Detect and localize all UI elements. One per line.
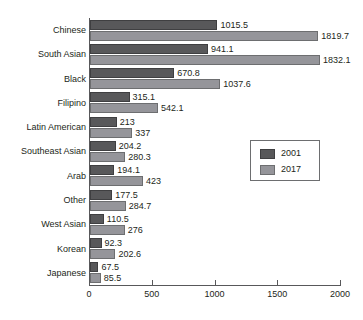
bar-row: 337 <box>90 128 341 138</box>
bar-value-label: 67.5 <box>101 262 119 272</box>
x-axis-tick-label: 2000 <box>330 289 350 299</box>
bar-value-label: 1015.5 <box>220 20 248 30</box>
category-group: West Asian110.5276 <box>90 212 341 236</box>
category-group: Filipino315.1542.1 <box>90 91 341 115</box>
bar-row: 670.8 <box>90 68 341 78</box>
bar-value-label: 670.8 <box>177 68 200 78</box>
category-label: Japanese <box>47 268 86 278</box>
category-label: Other <box>63 195 86 205</box>
bar-value-label: 92.3 <box>105 238 123 248</box>
category-label: Black <box>64 74 86 84</box>
bar-2001 <box>90 262 98 272</box>
legend-swatch-2017 <box>260 165 275 175</box>
bar-row: 202.6 <box>90 249 341 259</box>
x-axis-tick <box>277 280 278 285</box>
category-label: West Asian <box>41 219 86 229</box>
legend-label-2001: 2001 <box>281 149 301 158</box>
bar-2017 <box>90 273 101 283</box>
bar-2001 <box>90 141 116 151</box>
x-axis-tick-label: 0 <box>86 289 91 299</box>
bar-2017 <box>90 55 320 65</box>
bar-value-label: 177.5 <box>115 190 138 200</box>
bar-row: 284.7 <box>90 201 341 211</box>
category-label: Arab <box>67 171 86 181</box>
bar-row: 276 <box>90 225 341 235</box>
x-axis-tick <box>340 280 341 285</box>
category-label: South Asian <box>38 49 86 59</box>
x-axis-tick <box>215 280 216 285</box>
bar-2017 <box>90 103 158 113</box>
bar-value-label: 280.3 <box>128 152 151 162</box>
bar-2001 <box>90 190 112 200</box>
bar-value-label: 204.2 <box>119 141 142 151</box>
bar-value-label: 1037.6 <box>223 79 251 89</box>
category-group: Chinese1015.51819.7 <box>90 18 341 42</box>
bar-value-label: 315.1 <box>133 92 156 102</box>
legend-label-2017: 2017 <box>281 165 301 174</box>
bar-2001 <box>90 117 117 127</box>
bar-2001 <box>90 68 174 78</box>
bar-value-label: 941.1 <box>211 44 234 54</box>
bar-2017 <box>90 249 115 259</box>
bar-value-label: 337 <box>135 128 150 138</box>
x-axis-tick-label: 1000 <box>204 289 224 299</box>
bar-row: 542.1 <box>90 103 341 113</box>
bar-value-label: 213 <box>120 117 135 127</box>
bar-row: 85.5 <box>90 273 341 283</box>
bar-2017 <box>90 152 125 162</box>
bar-row: 941.1 <box>90 44 341 54</box>
bar-value-label: 284.7 <box>129 201 152 211</box>
bar-value-label: 110.5 <box>107 214 129 224</box>
bar-row: 1819.7 <box>90 31 341 41</box>
bar-row: 67.5 <box>90 262 341 272</box>
legend: 2001 2017 <box>250 140 320 181</box>
bar-2017 <box>90 201 126 211</box>
x-axis-tick <box>89 280 90 285</box>
bar-value-label: 423 <box>146 176 161 186</box>
bar-2001 <box>90 92 130 102</box>
bar-row: 1037.6 <box>90 79 341 89</box>
legend-swatch-2001 <box>260 149 275 159</box>
bar-value-label: 85.5 <box>104 273 122 283</box>
legend-item-2017: 2017 <box>260 164 301 175</box>
category-label: Southeast Asian <box>21 146 86 156</box>
bar-2001 <box>90 44 208 54</box>
bar-2017 <box>90 176 143 186</box>
bar-2017 <box>90 128 132 138</box>
bar-value-label: 276 <box>128 225 143 235</box>
category-label: Chinese <box>53 25 86 35</box>
category-group: Other177.5284.7 <box>90 188 341 212</box>
bar-2001 <box>90 165 114 175</box>
bar-value-label: 1819.7 <box>321 31 349 41</box>
category-group: South Asian941.11832.1 <box>90 42 341 66</box>
bar-row: 213 <box>90 117 341 127</box>
bar-2017 <box>90 79 220 89</box>
bar-2001 <box>90 238 102 248</box>
bar-row: 1832.1 <box>90 55 341 65</box>
category-group: Korean92.3202.6 <box>90 236 341 260</box>
x-axis-tick-label: 500 <box>144 289 159 299</box>
bar-2017 <box>90 31 318 41</box>
bar-value-label: 194.1 <box>117 165 140 175</box>
bar-row: 110.5 <box>90 214 341 224</box>
category-label: Latin American <box>26 122 86 132</box>
category-group: Black670.81037.6 <box>90 67 341 91</box>
bar-2001 <box>90 20 217 30</box>
category-group: Japanese67.585.5 <box>90 261 341 285</box>
x-axis-tick <box>152 280 153 285</box>
bar-value-label: 1832.1 <box>323 55 351 65</box>
category-label: Filipino <box>57 98 86 108</box>
bar-row: 92.3 <box>90 238 341 248</box>
bar-row: 1015.5 <box>90 20 341 30</box>
x-axis-line <box>89 285 341 286</box>
legend-item-2001: 2001 <box>260 148 301 159</box>
bar-2017 <box>90 225 125 235</box>
bar-value-label: 542.1 <box>161 103 184 113</box>
x-axis-tick-label: 1500 <box>267 289 287 299</box>
bar-row: 315.1 <box>90 92 341 102</box>
category-group: Latin American213337 <box>90 115 341 139</box>
bar-2001 <box>90 214 104 224</box>
bar-chart: Chinese1015.51819.7South Asian941.11832.… <box>0 0 363 320</box>
bar-row: 177.5 <box>90 190 341 200</box>
bar-value-label: 202.6 <box>118 249 141 259</box>
